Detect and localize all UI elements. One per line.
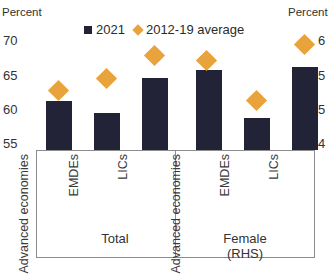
diamond-female-emdes bbox=[246, 90, 267, 111]
bar-total-lics bbox=[142, 78, 168, 150]
diamond-total-advanced-economies bbox=[48, 80, 69, 101]
diamond-female-advanced-economies bbox=[196, 50, 217, 71]
group-label-total: Total bbox=[56, 232, 174, 247]
right-axis-tick-60: 6 bbox=[318, 34, 334, 47]
group-label-female-line2: (RHS) bbox=[186, 247, 304, 262]
left-axis-tick-60: 60 bbox=[3, 103, 29, 116]
diamond-total-emdes bbox=[96, 68, 117, 89]
group-label-female: Female (RHS) bbox=[186, 232, 304, 262]
category-label-total-lics: LICs bbox=[117, 154, 130, 180]
right-axis-tick-45: 4 bbox=[318, 137, 334, 150]
category-label-total-emdes: EMDEs bbox=[68, 154, 81, 196]
category-label-female-lics: LICs bbox=[268, 154, 281, 180]
left-axis-title: Percent bbox=[2, 6, 42, 18]
bar-female-emdes bbox=[244, 118, 270, 150]
left-axis-tick-65: 65 bbox=[3, 69, 29, 82]
plot-area bbox=[36, 30, 316, 150]
bar-female-advanced-economies bbox=[196, 70, 222, 150]
group-label-female-line1: Female bbox=[186, 232, 304, 247]
bar-total-emdes bbox=[94, 113, 120, 150]
bar-female-lics bbox=[292, 67, 318, 150]
category-label-female-advanced-economies: Advanced economies bbox=[170, 154, 183, 274]
bar-total-advanced-economies bbox=[46, 101, 72, 150]
right-axis-tick-55: 5 bbox=[318, 69, 334, 82]
diamond-total-lics bbox=[144, 45, 165, 66]
right-axis-tick-50: 5 bbox=[318, 103, 334, 116]
left-axis-tick-70: 70 bbox=[3, 34, 29, 47]
category-label-total-advanced-economies: Advanced economies bbox=[18, 154, 31, 274]
left-axis-tick-55: 55 bbox=[3, 137, 29, 150]
category-label-female-emdes: EMDEs bbox=[219, 154, 232, 196]
diamond-female-lics bbox=[294, 34, 315, 55]
right-axis-title: Percent bbox=[288, 6, 328, 18]
